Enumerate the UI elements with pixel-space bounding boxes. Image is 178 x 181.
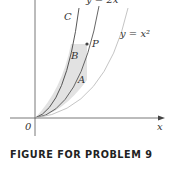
label-y-x2: y = x²	[119, 28, 150, 39]
origin-label: 0	[25, 121, 32, 132]
figure-caption: FIGURE FOR PROBLEM 9	[10, 148, 153, 160]
label-b: B	[70, 50, 78, 61]
x-axis-label: x	[157, 121, 163, 132]
label-c: C	[64, 11, 72, 22]
label-y-2x2: y = 2x²	[85, 0, 122, 5]
label-p: P	[91, 38, 99, 49]
point-p	[85, 42, 88, 45]
x-axis-arrow-icon	[158, 116, 165, 121]
label-a: A	[77, 74, 85, 85]
